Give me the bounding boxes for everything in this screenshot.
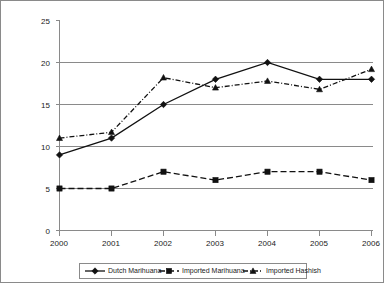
data-point-1-0 bbox=[57, 186, 62, 191]
y-tick-label-10: 10 bbox=[41, 143, 50, 152]
data-point-1-3 bbox=[213, 178, 218, 183]
y-tick-labels: 25 20 15 10 5 0 bbox=[41, 17, 50, 236]
data-point-0-2 bbox=[160, 101, 166, 107]
x-tick-label-2005: 2005 bbox=[310, 239, 328, 248]
data-point-0-4 bbox=[264, 59, 270, 65]
x-tickmarks bbox=[60, 231, 372, 236]
x-tick-label-2004: 2004 bbox=[258, 239, 276, 248]
data-point-0-6 bbox=[368, 76, 374, 82]
y-tick-label-25: 25 bbox=[41, 17, 50, 26]
data-point-1-5 bbox=[317, 169, 322, 174]
x-tick-labels: 2000 2001 2002 2003 2004 2005 2006 bbox=[50, 239, 380, 248]
legend-marker-1 bbox=[166, 268, 171, 273]
data-series-layer bbox=[56, 59, 374, 191]
x-tick-label-2002: 2002 bbox=[154, 239, 172, 248]
data-point-1-4 bbox=[265, 169, 270, 174]
x-tick-label-2001: 2001 bbox=[102, 239, 120, 248]
y-tick-label-5: 5 bbox=[46, 185, 51, 194]
data-point-0-3 bbox=[212, 76, 218, 82]
data-point-0-1 bbox=[108, 135, 114, 141]
line-chart: 25 20 15 10 5 0 2000 2001 2002 2003 2004… bbox=[1, 1, 384, 283]
y-tickmarks bbox=[56, 21, 60, 231]
series-dutch-marihuana bbox=[56, 59, 374, 158]
series-imported-marihuana bbox=[57, 169, 374, 191]
data-point-0-0 bbox=[56, 152, 62, 158]
y-tick-label-15: 15 bbox=[41, 101, 50, 110]
data-point-1-2 bbox=[161, 169, 166, 174]
data-point-0-5 bbox=[316, 76, 322, 82]
legend-entries: Dutch MarihuanaImported MarihuanaImporte… bbox=[85, 267, 321, 275]
legend-label-1: Imported Marihuana bbox=[182, 267, 245, 275]
legend-label-2: Imported Hashish bbox=[266, 267, 321, 275]
x-tick-label-2000: 2000 bbox=[50, 239, 68, 248]
y-tick-label-0: 0 bbox=[46, 227, 51, 236]
data-point-1-6 bbox=[369, 178, 374, 183]
data-point-1-1 bbox=[109, 186, 114, 191]
x-tick-label-2003: 2003 bbox=[206, 239, 224, 248]
data-point-2-2 bbox=[161, 75, 167, 81]
y-tick-label-20: 20 bbox=[41, 59, 50, 68]
legend-label-0: Dutch Marihuana bbox=[108, 267, 161, 274]
x-tick-label-2006: 2006 bbox=[362, 239, 380, 248]
chart-figure: 25 20 15 10 5 0 2000 2001 2002 2003 2004… bbox=[0, 0, 384, 283]
data-point-2-6 bbox=[369, 66, 375, 72]
chart-legend: Dutch MarihuanaImported MarihuanaImporte… bbox=[80, 264, 321, 279]
